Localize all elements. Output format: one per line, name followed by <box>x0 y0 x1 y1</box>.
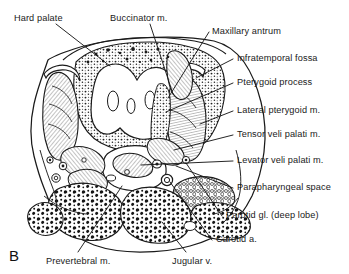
label-jugular-v: Jugular v. <box>172 257 212 266</box>
label-hard-palate: Hard palate <box>14 14 63 23</box>
label-parapharyngeal-space: Parapharyngeal space <box>237 183 331 192</box>
label-tensor-veli-palati: Tensor veli palati m. <box>237 130 320 139</box>
label-pterygoid-process: Pterygoid process <box>237 78 312 87</box>
anatomy-figure-panel-b: B Hard palate Buccinator m. Maxillary an… <box>0 0 349 274</box>
turbinate-island-left <box>108 91 119 111</box>
label-lateral-pterygoid: Lateral pterygoid m. <box>237 106 320 115</box>
bone-fragment-lower-left <box>28 203 63 236</box>
label-levator-veli-palati: Levator veli palati m. <box>237 156 323 165</box>
label-infratemporal-fossa: Infratemporal fossa <box>237 54 318 63</box>
panel-letter: B <box>9 248 19 263</box>
label-buccinator: Buccinator m. <box>110 14 167 23</box>
vomer-island <box>127 99 135 114</box>
label-carotid-a: Carotid a. <box>216 235 257 244</box>
label-prevertebral: Prevertebral m. <box>46 257 110 266</box>
label-maxillary-antrum: Maxillary antrum <box>212 27 281 36</box>
label-parotid-deep-lobe: Parotid gl. (deep lobe) <box>226 211 319 220</box>
